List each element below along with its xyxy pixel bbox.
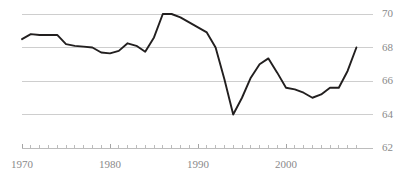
x-tick-label-2000: 2000 [275,158,298,170]
gridlines [22,14,373,115]
y-tick-label-70: 70 [382,7,394,19]
y-axis-tick-labels: 6264666870 [382,7,394,153]
y-tick-label-68: 68 [382,41,394,53]
y-tick-label-66: 66 [382,74,394,86]
chart-canvas: 6264666870 1970198019902000 [0,0,407,183]
x-axis-tick-labels: 1970198019902000 [11,158,298,170]
x-tick-label-1990: 1990 [187,158,210,170]
data-series [22,14,356,115]
x-tick-label-1970: 1970 [11,158,34,170]
y-tick-label-62: 62 [382,141,393,153]
line-chart: 6264666870 1970198019902000 [0,0,407,183]
y-tick-label-64: 64 [382,108,394,120]
data-line-series-1 [22,14,356,115]
x-axis [22,144,373,149]
x-tick-label-1980: 1980 [99,158,122,170]
